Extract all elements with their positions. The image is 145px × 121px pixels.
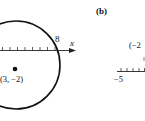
x-axis-arrow-icon [69,48,76,53]
x-axis-label: x [70,39,74,48]
center-label: (3, −2) [0,75,23,84]
math-figure: 8 x (3, −2) (b) (−2 −5 [0,0,145,121]
panel-b-ticks [121,68,145,72]
panel-b-tick-label: −5 [114,75,123,84]
x-axis-ticks [3,47,56,51]
tick-label-8: 8 [55,35,60,44]
panel-b-point-label: (−2 [129,41,141,50]
center-point [13,67,18,72]
figure-graphics [0,0,145,121]
circle [0,21,60,109]
panel-b-label: (b) [96,7,107,16]
